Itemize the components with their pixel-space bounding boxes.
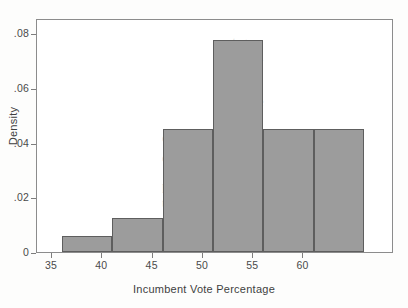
y-tick-label: 0 (0, 246, 29, 258)
x-tick-label: 45 (132, 259, 172, 271)
x-tick-label: 35 (31, 259, 71, 271)
y-tick-mark (31, 34, 36, 35)
x-axis-title: Incumbent Vote Percentage (0, 283, 408, 295)
plot-area: entage the story ging the es. If the ort… (36, 19, 393, 253)
x-tick-label: 60 (282, 259, 322, 271)
x-tick-mark (101, 253, 102, 258)
x-tick-label: 50 (182, 259, 222, 271)
y-tick-mark (31, 198, 36, 199)
histogram-bar (62, 236, 112, 252)
x-tick-mark (202, 253, 203, 258)
x-tick-mark (302, 253, 303, 258)
histogram-figure: entage the story ging the es. If the ort… (0, 0, 408, 308)
histogram-bar (314, 129, 364, 252)
y-tick-mark (31, 144, 36, 145)
histogram-bar (263, 129, 313, 252)
histogram-bar (112, 218, 162, 252)
histogram-bar (213, 40, 263, 252)
x-tick-label: 55 (232, 259, 272, 271)
x-tick-mark (51, 253, 52, 258)
y-tick-mark (31, 253, 36, 254)
y-tick-mark (31, 89, 36, 90)
x-tick-label: 40 (81, 259, 121, 271)
x-tick-mark (152, 253, 153, 258)
y-tick-label: .02 (0, 191, 29, 203)
histogram-bar (163, 129, 213, 252)
y-tick-label: .08 (0, 27, 29, 39)
y-axis-title: Density (7, 91, 19, 161)
x-tick-mark (252, 253, 253, 258)
